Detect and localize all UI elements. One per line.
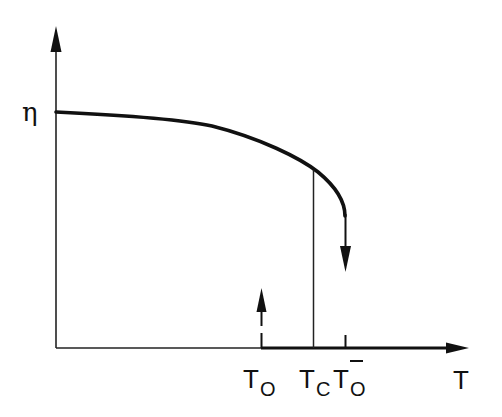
marker-label-tc: T C (299, 364, 330, 400)
supercooling-jump-arrow (257, 288, 267, 348)
marker-label-t0: T O (243, 364, 276, 400)
svg-text:T: T (299, 364, 315, 394)
up-arrow-icon (257, 288, 267, 312)
down-arrow-icon (340, 246, 351, 272)
x-axis-arrow-icon (446, 343, 469, 354)
y-axis-label: η (22, 97, 38, 127)
svg-text:O: O (350, 378, 366, 400)
x-axis-label: T (453, 365, 469, 395)
svg-text:T: T (333, 364, 349, 394)
svg-text:C: C (316, 378, 330, 400)
order-parameter-diagram: η T O T C T O T (0, 0, 502, 417)
svg-text:T: T (243, 364, 259, 394)
order-parameter-curve (56, 112, 345, 216)
svg-text:O: O (260, 378, 276, 400)
y-axis-arrow-icon (51, 26, 62, 52)
superheating-jump-arrow (340, 214, 351, 272)
marker-label-t0bar: T O (333, 361, 366, 400)
y-axis (51, 26, 62, 348)
